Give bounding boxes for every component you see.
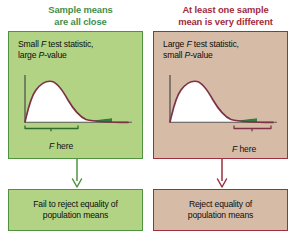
left-flow-arrow [70,159,84,189]
right-title-l1-post: test statistic, [192,39,239,49]
left-conclusion-text: Fail to reject equality of population me… [33,199,117,222]
left-f-here-label: F here [49,141,73,151]
left-f-distribution-plot [14,65,142,133]
left-title-l1-post: test statistic, [46,39,93,49]
right-heading-line-2: mean is very different [153,16,298,28]
right-conclusion-line-1: Reject equality of [188,199,253,211]
left-branch-column: Sample means are all close Small F test … [8,0,153,241]
left-conclusion-box: Fail to reject equality of population me… [8,189,143,231]
right-f-here-bracket [234,126,271,131]
right-f-distribution-plot [159,65,287,133]
right-conclusion-box: Reject equality of population means [153,189,288,231]
left-title-l1-pre: Small [18,39,41,49]
left-column-heading: Sample means are all close [8,4,153,27]
left-density-curve-fill [25,81,128,122]
left-distribution-panel: Small F test statistic, large P-value [8,31,143,159]
right-title-l2-post: -value [190,50,213,60]
left-f-here-bracket [25,126,78,131]
right-panel-title: Large F test statistic, small P-value [163,39,281,61]
right-density-curve-fill [170,81,273,122]
left-conclusion-line-2: population means [33,210,117,222]
left-f-here-post: here [54,141,73,151]
right-conclusion-line-2: population means [188,210,253,222]
right-heading-line-1: At least one sample [153,4,298,16]
right-panel-title-line-2: small P-value [163,50,281,61]
left-heading-line-1: Sample means [8,4,153,16]
right-title-l2-pre: small [163,50,185,60]
left-title-l2-pre: large [18,50,39,60]
left-conclusion-line-1: Fail to reject equality of [33,199,117,211]
left-panel-title-line-1: Small F test statistic, [18,39,136,50]
right-title-l1-pre: Large [163,39,186,49]
right-conclusion-text: Reject equality of population means [188,199,253,222]
left-panel-title-line-2: large P-value [18,50,136,61]
left-panel-title: Small F test statistic, large P-value [18,39,136,61]
right-flow-arrow [215,159,229,189]
anova-decision-diagram: Sample means are all close Small F test … [0,0,300,241]
left-title-l2-post: -value [44,50,67,60]
right-f-here-post: here [237,144,256,154]
right-column-heading: At least one sample mean is very differe… [153,4,298,27]
right-f-here-label: F here [232,144,256,154]
right-distribution-panel: Large F test statistic, small P-value F … [153,31,288,159]
left-heading-line-2: are all close [8,16,153,28]
right-panel-title-line-1: Large F test statistic, [163,39,281,50]
right-branch-column: At least one sample mean is very differe… [153,0,298,241]
